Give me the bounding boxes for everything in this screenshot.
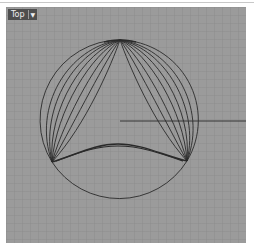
viewport-title-dropdown[interactable]: Top ▼ <box>8 9 37 20</box>
label-separator <box>28 10 29 19</box>
top-viewport[interactable]: Top ▼ <box>6 7 246 243</box>
viewport-title-label: Top <box>11 9 25 20</box>
circle-lower-arc <box>52 161 187 199</box>
viewport-geometry <box>6 7 246 243</box>
window-top-border <box>0 2 254 3</box>
inner-bottom-arc <box>52 144 187 162</box>
chevron-down-icon[interactable]: ▼ <box>31 9 36 20</box>
